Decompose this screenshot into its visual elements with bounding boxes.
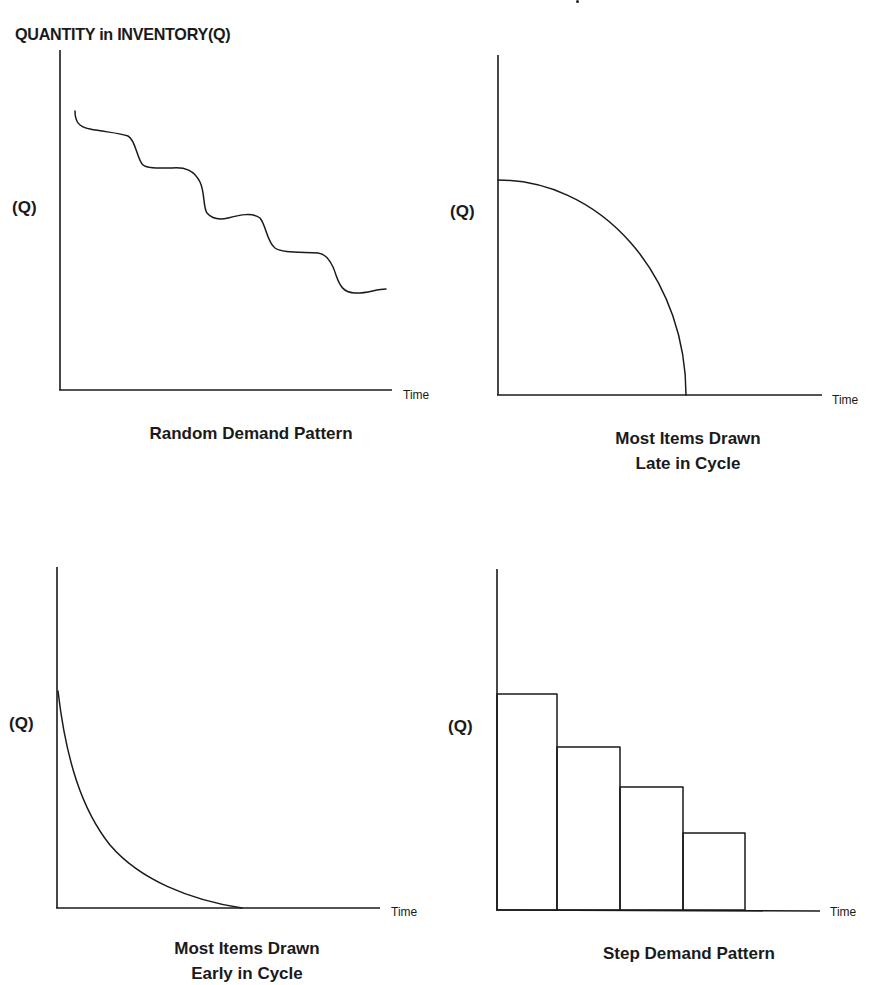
caption-line: Step Demand Pattern — [603, 941, 775, 966]
step-bar-3 — [620, 787, 683, 910]
x-axis-label: Time — [830, 906, 856, 918]
step-bars — [497, 694, 745, 910]
step-bar-2 — [557, 747, 620, 910]
chart-caption: Step Demand Pattern — [603, 941, 775, 966]
chart-step-plot — [0, 0, 875, 985]
y-axis-label: (Q) — [448, 718, 473, 735]
step-bar-1 — [497, 694, 557, 910]
step-bar-4 — [683, 833, 745, 910]
